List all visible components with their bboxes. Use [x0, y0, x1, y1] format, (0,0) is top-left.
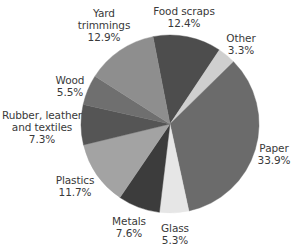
slice-label-percent: 11.7%	[56, 186, 95, 198]
slice-label-percent: 12.9%	[78, 31, 131, 43]
slice-label-percent: 7.6%	[112, 227, 146, 239]
slice-label-name: Metals	[112, 215, 146, 227]
slice-label-name: Plastics	[56, 174, 95, 186]
slice-label-name: Food scraps	[153, 5, 215, 17]
slice-label-name: Yard	[78, 7, 131, 19]
slice-label-rubber-leather-and-textiles: Rubber, leatherand textiles7.3%	[2, 109, 82, 145]
slice-label-name: Rubber, leather	[2, 109, 82, 121]
slice-label-name: Paper	[258, 142, 291, 154]
slice-label-name: Glass	[161, 222, 189, 234]
slice-label-percent: 5.3%	[161, 234, 189, 246]
slice-label-plastics: Plastics11.7%	[56, 174, 95, 198]
pie-slices	[81, 35, 259, 213]
slice-label-name: trimmings	[78, 19, 131, 31]
slice-label-glass: Glass5.3%	[161, 222, 189, 246]
slice-label-food-scraps: Food scraps12.4%	[153, 5, 215, 29]
slice-label-percent: 12.4%	[153, 17, 215, 29]
slice-label-paper: Paper33.9%	[258, 142, 291, 166]
slice-label-name: and textiles	[2, 121, 82, 133]
slice-label-percent: 3.3%	[226, 44, 255, 56]
slice-label-name: Wood	[56, 74, 85, 86]
slice-label-percent: 33.9%	[258, 154, 291, 166]
slice-label-name: Other	[226, 32, 255, 44]
slice-label-yard-trimmings: Yardtrimmings12.9%	[78, 7, 131, 43]
slice-label-percent: 5.5%	[56, 86, 85, 98]
slice-label-metals: Metals7.6%	[112, 215, 146, 239]
slice-label-percent: 7.3%	[2, 133, 82, 145]
slice-label-other: Other3.3%	[226, 32, 255, 56]
slice-label-wood: Wood5.5%	[56, 74, 85, 98]
